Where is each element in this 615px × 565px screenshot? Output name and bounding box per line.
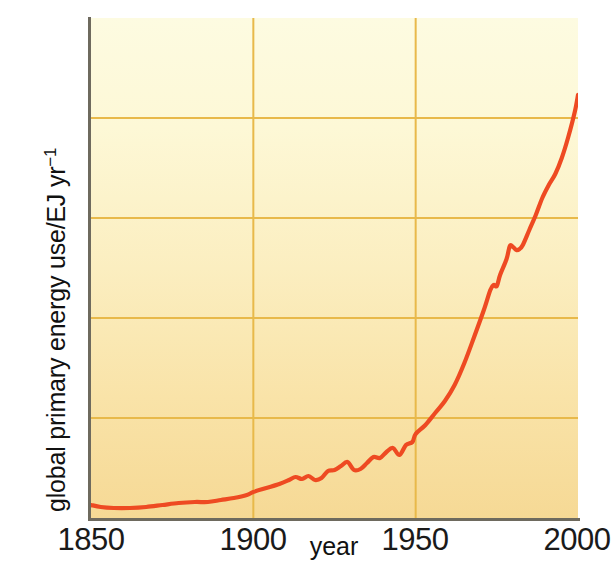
y-axis-title: global primary energy use/EJ yr−1	[36, 0, 76, 512]
y-axis-spine	[88, 17, 91, 520]
x-axis-spine	[88, 518, 580, 521]
plot-area	[91, 18, 578, 518]
energy-use-line	[91, 95, 578, 508]
x-axis-title: year	[88, 534, 580, 559]
plot-svg	[91, 18, 578, 518]
y-axis-title-exponent: −1	[41, 148, 60, 167]
